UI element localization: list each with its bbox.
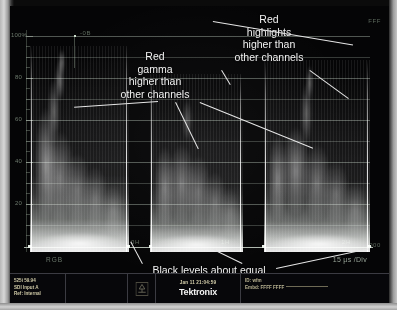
trace-green [150,74,243,252]
status-format: 525i 59.94 [10,274,65,284]
trace-blue-left-edge [265,60,266,252]
sweep-rate-label: 15 µs /Div [333,256,367,263]
monitor-bezel-right [389,0,397,310]
annotation-line: higher than [102,75,208,88]
status-cell-brand: Jan 11 21:04:59 Tektronix [156,274,241,303]
status-bar: 525i 59.94 SDI Input A Ref: Internal Jan… [10,273,389,303]
brand-logo: Tektronix [179,287,217,297]
waveform-parade-blue [264,60,370,252]
axis-label-80: 80 [15,74,22,80]
corner-label-fff: FFF [368,18,381,24]
axis-label-60: 60 [15,116,22,122]
waveform-parade-green [150,74,243,252]
monitor-bezel-bottom [0,303,397,310]
status-cell-ancillary[interactable]: ID: wfm Embd: FFFF FFFF [241,274,389,303]
trace-blue-grain [264,60,370,252]
status-embedded-label: Embd: FFFF FFFF [245,285,284,290]
status-cell-alarms[interactable] [66,274,128,303]
axis-label-100: 100% [11,32,27,38]
trace-blue-right-edge [367,60,368,252]
photograph-of-waveform-monitor: 100% 80 60 40 20 FFF 000 -0B 0H 1H 2H [0,0,397,310]
axis-label-40: 40 [15,158,22,164]
annotation-red-highlights: Red highlights higher than other channel… [215,13,323,63]
annotation-red-gamma: Red gamma higher than other channels [102,50,208,100]
trace-red-left-edge [31,46,32,252]
status-cell-signal[interactable]: 525i 59.94 SDI Input A Ref: Internal [10,274,66,303]
annotation-line: Red [102,50,208,63]
trace-green-right-edge [240,74,241,252]
marker-label-0b: -0B [80,30,91,36]
status-reference: Ref: Internal [10,290,65,297]
status-id: ID: wfm [241,274,389,284]
waveform-monitor-screen: 100% 80 60 40 20 FFF 000 -0B 0H 1H 2H [10,6,389,303]
annotation-line: other channels [215,51,323,64]
status-embedded-trailing [286,286,328,287]
trace-green-grain [150,74,243,252]
annotation-line: gamma [102,63,208,76]
graticule: 100% 80 60 40 20 FFF 000 -0B 0H 1H 2H [10,6,389,274]
annotation-line: other channels [102,88,208,101]
annotation-line: higher than [215,38,323,51]
waveform-mode-icon [135,282,148,296]
trace-blue [264,60,370,252]
status-datetime: Jan 11 21:04:59 [180,280,217,285]
status-cell-mode-glyph[interactable] [128,274,156,303]
display-mode-label: RGB [46,256,63,263]
status-input: SDI Input A [10,284,65,291]
status-embedded: Embd: FFFF FFFF [241,284,389,291]
axis-label-20: 20 [15,200,22,206]
